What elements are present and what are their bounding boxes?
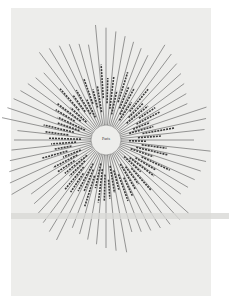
radial-diagram [0,0,229,306]
center-label: Paris [94,136,118,141]
scan-artifact-band [11,213,229,219]
